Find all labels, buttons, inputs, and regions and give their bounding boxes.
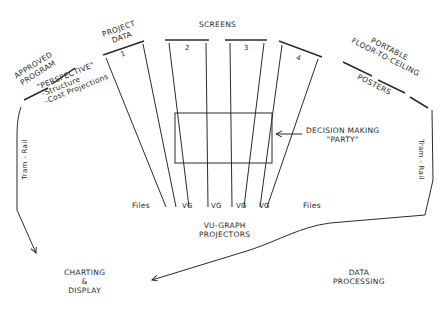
processing-line: PROCESSING xyxy=(333,277,385,286)
screens-title: SCREENS xyxy=(199,20,236,29)
screen-3-beam-right xyxy=(244,43,264,207)
tram-rail-left-path xyxy=(17,107,36,253)
screen-2-number: 2 xyxy=(185,44,190,53)
files-right-label: Files xyxy=(303,201,321,210)
screen-2-beam-left xyxy=(169,43,189,207)
room-layout-diagram: APPROVED PROGRAM "PERSPECTIVE" -Structur… xyxy=(0,0,445,311)
vg-label-2: VG xyxy=(211,202,222,211)
vg-label-3: VG xyxy=(236,202,247,211)
posters-wall-1 xyxy=(343,62,372,76)
data-processing-label: DATA PROCESSING xyxy=(333,268,385,286)
vg-label-4: VG xyxy=(259,202,270,211)
screen-1-beam-left xyxy=(106,58,166,207)
projectors-line: PROJECTORS xyxy=(199,230,250,239)
ampersand-line: & xyxy=(64,277,105,286)
screen-2-beam-right xyxy=(206,43,208,207)
data-line: DATA xyxy=(333,268,385,277)
screen-3-beam-left xyxy=(230,43,232,207)
decision-making-line-1: DECISION MAKING xyxy=(306,126,380,135)
tram-rail-right-path xyxy=(152,110,433,280)
vu-graph-line: VU-GRAPH xyxy=(199,221,250,230)
tram-rail-right-label: Tram - Rail xyxy=(416,139,425,179)
tram-rail-left-label: Tram - Rail xyxy=(21,139,30,179)
screen-1-beam-right xyxy=(143,44,176,207)
decision-making-line-2: "PARTY" xyxy=(306,135,380,144)
charting-line: CHARTING xyxy=(64,268,105,277)
vu-graph-projectors-label: VU-GRAPH PROJECTORS xyxy=(199,221,250,239)
screen-4-beam-left xyxy=(260,45,282,207)
files-left-label: Files xyxy=(132,201,150,210)
charting-display-label: CHARTING & DISPLAY xyxy=(64,268,105,295)
display-line: DISPLAY xyxy=(64,286,105,295)
vg-label-1: VG xyxy=(182,202,193,211)
screen-3-number: 3 xyxy=(244,44,249,53)
decision-making-label: DECISION MAKING "PARTY" xyxy=(306,126,380,144)
decision-making-party-table xyxy=(175,113,272,163)
posters-wall-3 xyxy=(410,97,428,108)
